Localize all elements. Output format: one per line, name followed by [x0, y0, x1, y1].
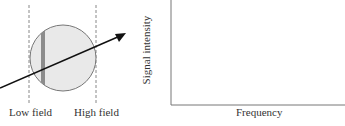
x-axis-label: Frequency: [236, 106, 282, 118]
resonance-band: [41, 20, 45, 100]
high-field-label: High field: [74, 106, 119, 118]
low-field-label: Low field: [9, 106, 52, 118]
y-axis-label: Signal intensity: [140, 16, 152, 85]
sample-circle: [30, 25, 96, 91]
